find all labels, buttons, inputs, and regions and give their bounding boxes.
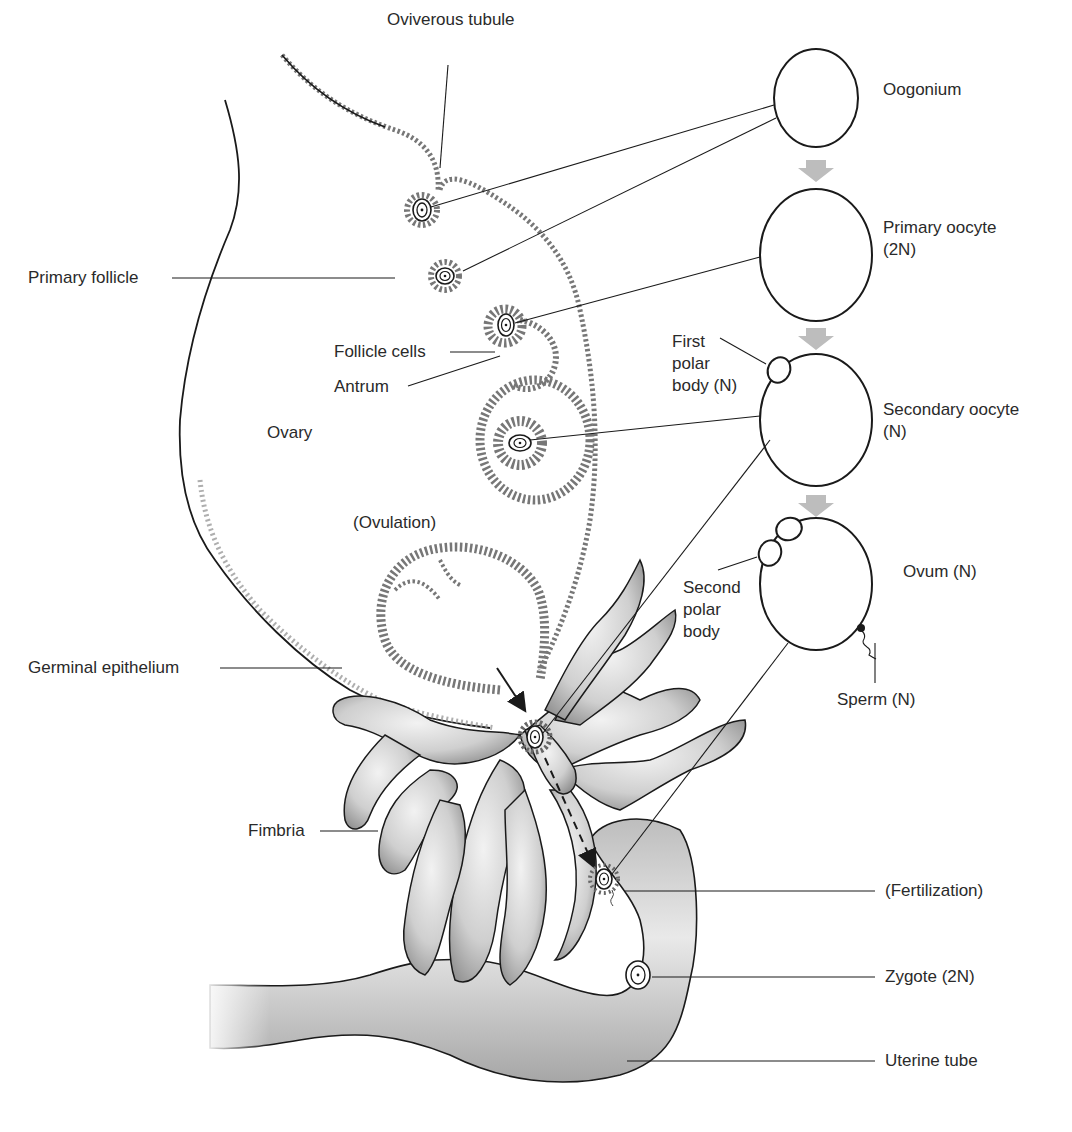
- label-zygote: Zygote (2N): [885, 967, 975, 987]
- stage-oogonium: [774, 49, 858, 147]
- primary-follicle: [431, 262, 459, 290]
- label-second-polar-body-2: polar: [683, 600, 721, 620]
- label-first-polar-body-3: body (N): [672, 376, 737, 396]
- label-fimbria: Fimbria: [248, 821, 305, 841]
- label-primary-oocyte-ploidy: (2N): [883, 240, 916, 260]
- label-ovum: Ovum (N): [903, 562, 977, 582]
- stage-arrow-3: [798, 495, 834, 517]
- ruptured-follicle: [381, 547, 545, 690]
- ovulation-arrow: [497, 668, 522, 706]
- label-follicle-cells: Follicle cells: [334, 342, 426, 362]
- sperm-tail: [862, 631, 876, 659]
- label-primary-follicle: Primary follicle: [28, 268, 139, 288]
- label-oviverous-tubule: Oviverous tubule: [387, 10, 515, 30]
- label-first-polar-body-2: polar: [672, 354, 710, 374]
- label-ovary: Ovary: [267, 423, 312, 443]
- label-sperm: Sperm (N): [837, 690, 915, 710]
- sperm-head: [857, 624, 865, 632]
- label-secondary-oocyte-ploidy: (N): [883, 422, 907, 442]
- label-fertilization: (Fertilization): [885, 881, 983, 901]
- stage-ovum: [755, 514, 876, 659]
- label-germinal-epithelium: Germinal epithelium: [28, 658, 179, 678]
- label-secondary-oocyte: Secondary oocyte: [883, 400, 1019, 420]
- stage-secondary-oocyte: [760, 354, 872, 486]
- stage-arrow-1: [798, 160, 834, 182]
- label-oogonium: Oogonium: [883, 80, 961, 100]
- zygote: [626, 961, 650, 989]
- stage-primary-oocyte: [760, 189, 872, 321]
- label-uterine-tube: Uterine tube: [885, 1051, 978, 1071]
- oogenesis-diagram: Oviverous tubule Primary follicle Follic…: [0, 0, 1072, 1132]
- follicle-oviverous: [407, 195, 437, 225]
- label-first-polar-body-1: First: [672, 332, 705, 352]
- label-primary-oocyte: Primary oocyte: [883, 218, 996, 238]
- label-second-polar-body-3: body: [683, 622, 720, 642]
- label-antrum: Antrum: [334, 377, 389, 397]
- stage-arrow-2: [798, 328, 834, 350]
- label-second-polar-body-1: Second: [683, 578, 741, 598]
- label-ovulation: (Ovulation): [353, 513, 436, 533]
